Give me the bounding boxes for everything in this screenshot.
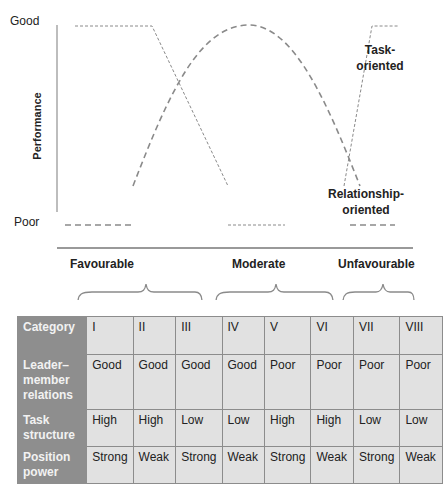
- table-cell: Low: [176, 410, 222, 447]
- task-oriented-label: Task- oriented: [345, 42, 415, 74]
- zone-favourable-label: Favourable: [70, 257, 134, 271]
- rel-label-line1: Relationship-: [318, 186, 414, 202]
- row-header-line: member: [23, 373, 81, 388]
- zone-braces: [78, 284, 414, 300]
- table-cell: Good: [133, 355, 176, 410]
- task-label-line2: oriented: [345, 58, 415, 74]
- table-cell: High: [311, 410, 354, 447]
- y-tick-good: Good: [10, 14, 39, 28]
- row-header-position-power: Position power: [18, 447, 87, 484]
- table-cell: Strong: [354, 447, 400, 484]
- table-cell: I: [87, 317, 133, 355]
- table-cell: V: [265, 317, 311, 355]
- table-row-category: Category I II III IV V VI VII VIII: [18, 317, 443, 355]
- table-cell: VI: [311, 317, 354, 355]
- table-cell: VII: [354, 317, 400, 355]
- y-tick-poor: Poor: [14, 215, 39, 229]
- table-cell: VIII: [400, 317, 443, 355]
- table-row-task-structure: Task structure High High Low Low High Hi…: [18, 410, 443, 447]
- brace-unfavourable: [343, 284, 414, 300]
- table-cell: Good: [87, 355, 133, 410]
- brace-favourable: [78, 284, 202, 300]
- table-cell: Low: [400, 410, 443, 447]
- table-cell: Weak: [133, 447, 176, 484]
- zone-unfavourable-label: Unfavourable: [338, 257, 415, 271]
- table-cell: Poor: [265, 355, 311, 410]
- row-header-line: Position: [23, 450, 81, 465]
- table-cell: Strong: [176, 447, 222, 484]
- task-label-line1: Task-: [345, 42, 415, 58]
- brace-moderate: [216, 284, 333, 300]
- situation-table: Category I II III IV V VI VII VIII Leade…: [17, 316, 443, 484]
- table-cell: High: [133, 410, 176, 447]
- table-cell: High: [265, 410, 311, 447]
- table-cell: Good: [176, 355, 222, 410]
- table-cell: Weak: [222, 447, 265, 484]
- table-cell: High: [87, 410, 133, 447]
- row-header-category: Category: [18, 317, 87, 355]
- table-cell: Weak: [311, 447, 354, 484]
- table-cell: Weak: [400, 447, 443, 484]
- table-cell: Poor: [311, 355, 354, 410]
- table-cell: Low: [354, 410, 400, 447]
- table-row-position-power: Position power Strong Weak Strong Weak S…: [18, 447, 443, 484]
- row-header-line: power: [23, 465, 81, 480]
- table-row-leader-member-relations: Leader– member relations Good Good Good …: [18, 355, 443, 410]
- relationship-oriented-label: Relationship- oriented: [318, 186, 414, 218]
- zone-moderate-label: Moderate: [232, 257, 285, 271]
- y-axis-title: Performance: [31, 81, 43, 171]
- row-header-task-structure: Task structure: [18, 410, 87, 447]
- row-header-line: Task: [23, 413, 81, 428]
- table-cell: Poor: [354, 355, 400, 410]
- row-header-line: Leader–: [23, 358, 81, 373]
- table-cell: Low: [222, 410, 265, 447]
- table-cell: Poor: [400, 355, 443, 410]
- table-cell: IV: [222, 317, 265, 355]
- row-header-line: structure: [23, 428, 81, 443]
- table-cell: II: [133, 317, 176, 355]
- row-header-line: relations: [23, 388, 81, 403]
- table-cell: Strong: [265, 447, 311, 484]
- table-cell: Strong: [87, 447, 133, 484]
- table-cell: III: [176, 317, 222, 355]
- table-cell: Good: [222, 355, 265, 410]
- rel-label-line2: oriented: [318, 202, 414, 218]
- row-header-leader-member-relations: Leader– member relations: [18, 355, 87, 410]
